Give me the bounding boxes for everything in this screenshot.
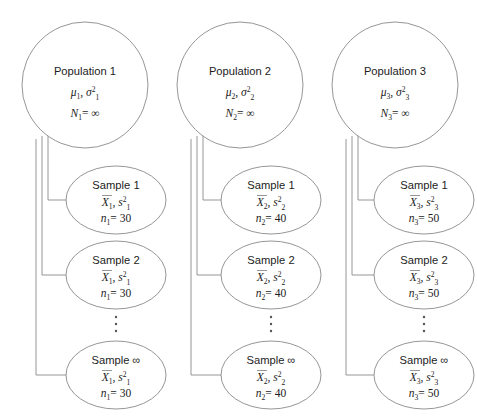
connector-pop2-sample-inf [191,139,221,375]
sample-title-3-inf: Sample ∞ [399,354,448,366]
connector-pop1-sample-inf [36,139,66,375]
sample-title-2-2: Sample 2 [247,254,294,266]
connector-pop2-sample2 [197,136,221,275]
vertical-ellipsis-icon-1 [115,316,117,332]
sample-title-1-inf: Sample ∞ [91,354,140,366]
population-circle-2[interactable] [177,22,303,148]
sample-title-2-1: Sample 1 [247,179,294,191]
connector-pop3-sample2 [352,136,376,275]
population-circle-3[interactable] [332,22,458,148]
population-circle-1[interactable] [22,22,148,148]
vertical-ellipsis-icon-2 [270,316,272,332]
vertical-ellipsis-icon-3 [423,316,425,332]
column-population-2: Population 2 μ2, σ22 N2= ∞ Sample 1 X2, … [177,22,321,409]
population-title-2: Population 2 [209,65,271,77]
sample-title-2-inf: Sample ∞ [246,354,295,366]
sample-title-3-2: Sample 2 [400,254,447,266]
connector-pop3-sample-inf [346,139,376,375]
column-population-3: Population 3 μ3, σ23 N3= ∞ Sample 1 X3, … [332,22,474,409]
sample-title-3-1: Sample 1 [400,179,447,191]
column-population-1: Population 1 μ1, σ21 N1= ∞ Sample 1 X1, … [22,22,166,409]
sample-title-1-1: Sample 1 [92,179,139,191]
population-title-3: Population 3 [364,65,426,77]
connector-pop1-sample2 [42,136,66,275]
sampling-diagram: Population 1 μ1, σ21 N1= ∞ Sample 1 X1, … [0,0,477,417]
population-title-1: Population 1 [54,65,116,77]
sample-title-1-2: Sample 2 [92,254,139,266]
